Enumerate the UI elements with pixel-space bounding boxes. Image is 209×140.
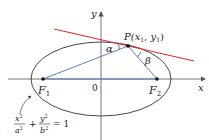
svg-text:b2: b2 — [40, 125, 48, 135]
alpha-arc — [118, 44, 119, 50]
point-p-label: P(x1, y1) — [123, 31, 164, 43]
alpha-label: α — [106, 43, 113, 54]
svg-text:x2: x2 — [15, 113, 23, 123]
beta-arc — [137, 52, 141, 57]
focus-f2-label: F2 — [148, 84, 161, 98]
equation-pointer-arrow — [20, 96, 31, 114]
svg-text:a2: a2 — [15, 125, 23, 135]
point-p-dot — [126, 44, 130, 48]
origin-label: 0 — [92, 83, 98, 93]
svg-text:+: + — [29, 119, 37, 129]
x-axis-label: x — [198, 82, 204, 93]
ellipse-equation: x2 a2 + y2 b2 = 1 — [14, 113, 69, 135]
svg-text:= 1: = 1 — [53, 119, 69, 129]
svg-text:y2: y2 — [39, 113, 48, 123]
focus-f2-dot — [155, 77, 159, 81]
beta-label: β — [144, 55, 151, 66]
y-axis-label: y — [90, 8, 97, 19]
line-f2-to-p — [128, 46, 157, 79]
focus-f1-label: F1 — [37, 84, 50, 98]
focus-f1-dot — [41, 77, 45, 81]
ellipse-diagram: y x 0 F1 F2 P(x1, y1) α β x2 a2 + y2 b2 … — [0, 0, 209, 140]
